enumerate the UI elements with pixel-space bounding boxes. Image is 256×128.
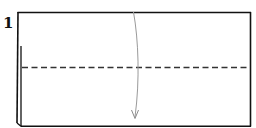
curved-down-arrow-icon — [132, 12, 139, 119]
paper-rectangle — [17, 12, 251, 127]
fold-diagram-canvas — [0, 0, 256, 128]
fold-diagram: 1 — [0, 0, 256, 128]
